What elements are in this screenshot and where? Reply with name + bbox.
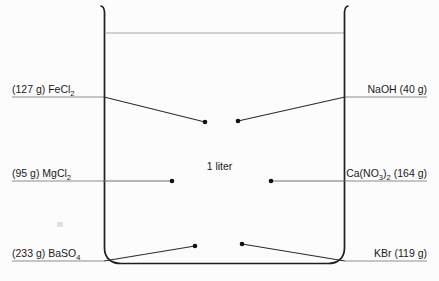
label-baso4-text: (233 g) BaSO (12, 247, 76, 259)
leader-dot-naoh (236, 119, 241, 124)
label-kbr-text: KBr (119 g) (374, 247, 427, 259)
label-cano3-subscript-1: 3 (379, 173, 383, 182)
beaker-outline (101, 6, 348, 264)
label-cano3-subscript-2: 2 (387, 173, 391, 182)
label-fecl2: (127 g) FeCl2 (12, 84, 75, 95)
label-naoh: NaOH (40 g) (367, 84, 427, 95)
leader-dot-baso4 (193, 244, 198, 249)
leader-dot-mgcl2 (170, 179, 175, 184)
label-fecl2-text: (127 g) FeCl (12, 83, 70, 95)
leader-line-baso4 (104, 246, 195, 261)
beaker-volume-label: 1 liter (0, 160, 439, 172)
label-mgcl2-subscript: 2 (67, 173, 71, 182)
label-baso4: (233 g) BaSO4 (12, 248, 80, 259)
label-fecl2-subscript: 2 (70, 89, 74, 98)
leader-line-fecl2 (104, 97, 205, 122)
label-kbr: KBr (119 g) (374, 248, 427, 259)
scan-artifact (57, 222, 63, 227)
chemistry-beaker-figure: (127 g) FeCl2 (95 g) MgCl2 (233 g) BaSO4… (0, 0, 439, 281)
label-naoh-text: NaOH (40 g) (367, 83, 427, 95)
leader-line-naoh (238, 97, 345, 121)
leader-dot-fecl2 (203, 120, 208, 125)
leader-dot-kbr (240, 242, 245, 247)
label-baso4-subscript: 4 (76, 253, 80, 262)
leader-dot-cano3 (269, 179, 274, 184)
figure-drawing (0, 0, 439, 281)
leader-line-kbr (242, 244, 345, 261)
